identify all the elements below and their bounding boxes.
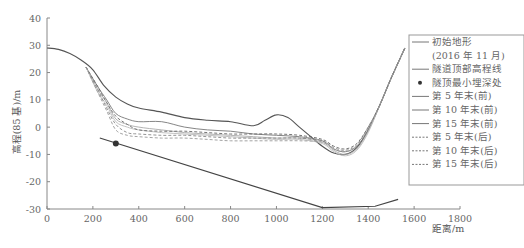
legend-label: 初始地形: [432, 36, 472, 47]
y-tick-label: -20: [26, 176, 41, 187]
legend-label: 隧顶最小埋深处: [432, 77, 502, 88]
x-tick-label: 1600: [402, 213, 426, 224]
y-tick-label: 20: [29, 67, 41, 78]
x-tick-label: 1400: [356, 213, 380, 224]
y-tick-label: 10: [29, 94, 41, 105]
x-tick-label: 1200: [310, 213, 334, 224]
y-tick-label: 0: [35, 122, 41, 133]
series-line-7: [86, 48, 405, 150]
legend-label: 第 15 年末(后): [432, 158, 498, 169]
x-tick-label: 400: [130, 213, 148, 224]
legend-label: 第 5 年末(前): [432, 90, 492, 101]
legend: 初始地形(2016 年 11 月)隧道顶部高程线隧顶最小埋深处第 5 年末(前)…: [409, 35, 524, 185]
x-tick-label: 1000: [264, 213, 288, 224]
y-tick-label: 30: [29, 40, 41, 51]
legend-label: 第 5 年末(后): [432, 131, 492, 142]
y-axis-label: 高程(85 基)/m: [11, 90, 22, 155]
legend-label: (2016 年 11 月): [432, 50, 505, 61]
min-cover-marker: [113, 141, 119, 147]
series-layer: [47, 48, 405, 208]
legend-label: 第 10 年末(前): [432, 104, 498, 115]
y-tick-label: 40: [29, 13, 41, 24]
y-tick-label: -30: [26, 204, 41, 215]
series-line-5: [86, 48, 405, 156]
axes: 020040060080010001200140016001800-30-20-…: [26, 13, 472, 225]
y-tick-label: -10: [26, 149, 41, 160]
legend-swatch-marker: [418, 81, 422, 85]
legend-label: 第 10 年末(后): [432, 145, 498, 156]
legend-label: 隧道顶部高程线: [432, 63, 502, 74]
x-axis-label: 距离/m: [432, 223, 464, 234]
x-tick-label: 200: [84, 213, 102, 224]
x-tick-label: 0: [44, 213, 50, 224]
chart-canvas: 020040060080010001200140016001800-30-20-…: [0, 0, 524, 248]
legend-label: 第 15 年末(前): [432, 118, 498, 129]
x-tick-label: 600: [176, 213, 194, 224]
x-tick-label: 800: [221, 213, 239, 224]
